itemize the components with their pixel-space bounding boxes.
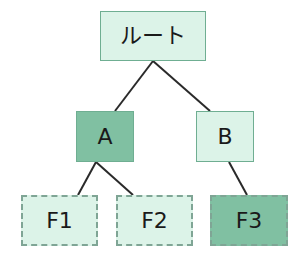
edge-b-f3 xyxy=(229,162,247,195)
node-f3-label: F3 xyxy=(236,210,263,232)
node-b-label: B xyxy=(217,126,232,148)
edge-a-f1 xyxy=(78,162,96,195)
node-f1-label: F1 xyxy=(46,210,73,232)
node-f2-label: F2 xyxy=(141,210,168,232)
edge-root-b xyxy=(153,61,210,111)
node-root-label: ルート xyxy=(120,25,186,47)
tree-diagram: ルート A B F1 F2 F3 xyxy=(0,0,307,262)
node-f1: F1 xyxy=(21,195,98,246)
node-f2: F2 xyxy=(116,195,193,246)
node-b: B xyxy=(196,111,254,162)
node-f3: F3 xyxy=(210,195,288,246)
node-a-label: A xyxy=(97,126,112,148)
node-a: A xyxy=(76,111,134,162)
edge-root-a xyxy=(115,61,153,111)
node-root: ルート xyxy=(100,11,206,61)
edge-a-f2 xyxy=(96,162,133,195)
